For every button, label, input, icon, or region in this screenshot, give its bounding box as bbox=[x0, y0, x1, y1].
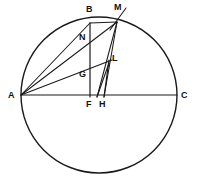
vertex-label-N: N bbox=[79, 33, 86, 42]
vertex-label-H: H bbox=[99, 100, 106, 109]
geometry-figure: A B M N L G F H C bbox=[0, 0, 209, 188]
vertex-label-F: F bbox=[86, 100, 92, 109]
vertex-label-M: M bbox=[114, 3, 122, 12]
vertex-label-G: G bbox=[79, 70, 86, 79]
vertex-label-C: C bbox=[181, 91, 188, 100]
geometry-canvas bbox=[0, 0, 209, 188]
vertex-label-L: L bbox=[112, 54, 118, 63]
vertex-label-B: B bbox=[86, 5, 93, 14]
vertex-label-A: A bbox=[8, 91, 15, 100]
